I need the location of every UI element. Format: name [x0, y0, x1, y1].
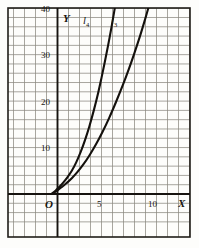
- paper-background: [0, 0, 199, 248]
- y-tick-label-20: 20: [41, 97, 51, 107]
- origin-label: O: [45, 198, 53, 210]
- curve-label-l3-sub: 3: [114, 21, 117, 28]
- x-axis-label: X: [177, 197, 186, 209]
- y-tick-label-10: 10: [41, 143, 51, 153]
- graph-plot-area: Y X O 5 10 10 20 30 40 l4 l3: [0, 0, 199, 248]
- y-tick-label-30: 30: [41, 50, 51, 60]
- graph-figure: Y X O 5 10 10 20 30 40 l4 l3: [0, 0, 199, 248]
- x-tick-label-10: 10: [148, 199, 158, 209]
- x-tick-label-5: 5: [97, 199, 102, 209]
- y-tick-label-40: 40: [41, 4, 51, 14]
